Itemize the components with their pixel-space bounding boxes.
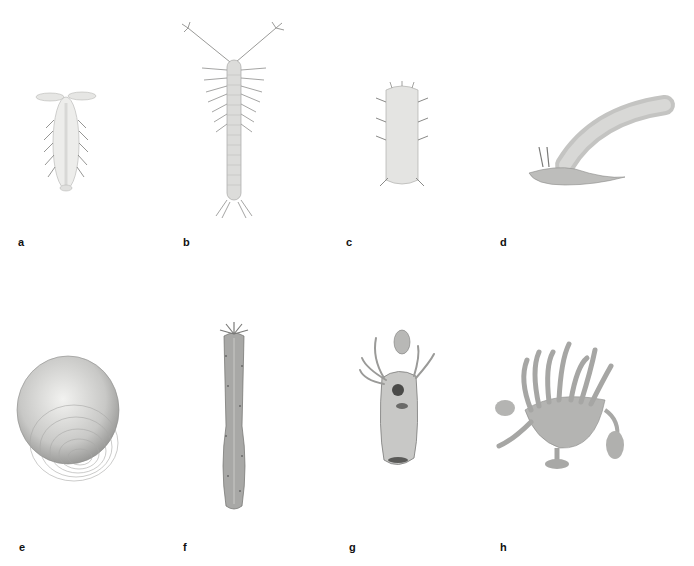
bivalve-shell-illustration	[16, 355, 126, 470]
panel-label-h: h	[500, 542, 507, 553]
isopod-illustration	[30, 85, 110, 195]
panel-label-g: g	[349, 542, 356, 553]
larva-illustration	[358, 318, 448, 473]
panel-label-b: b	[183, 237, 190, 248]
tube-animal-illustration	[525, 95, 675, 190]
tardigrade-illustration	[372, 80, 432, 195]
panel-label-d: d	[500, 237, 507, 248]
branched-antennae-crustacean-illustration	[180, 20, 290, 220]
panel-label-a: a	[18, 237, 24, 248]
panel-label-f: f	[183, 542, 187, 553]
stalked-polyp-illustration	[495, 330, 630, 480]
sea-cucumber-illustration	[212, 316, 257, 516]
panel-label-e: e	[19, 542, 25, 553]
panel-label-c: c	[346, 237, 352, 248]
